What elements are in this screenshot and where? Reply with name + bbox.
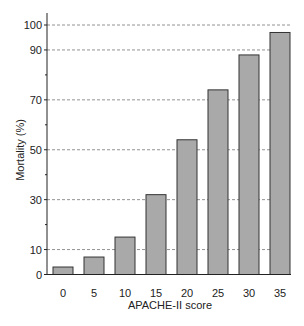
bar-20 [177,140,197,275]
bar-5 [84,257,104,274]
bar-25 [208,90,228,275]
bar-15 [146,195,166,275]
x-tick-label: 0 [60,287,66,299]
x-tick-label: 20 [181,287,193,299]
bar-10 [115,237,135,274]
x-tick-label: 10 [119,287,131,299]
x-tick-label: 35 [274,287,286,299]
bar-30 [239,55,259,275]
bar-0 [53,267,73,274]
y-ticks: 01030507090100 [24,19,47,281]
y-tick-label: 70 [30,94,42,106]
x-axis-label: APACHE-II score [128,299,212,311]
bar-35 [270,32,290,274]
y-tick-label: 50 [30,144,42,156]
x-tick-label: 5 [91,287,97,299]
y-tick-label: 0 [36,269,42,281]
x-tick-label: 15 [150,287,162,299]
y-tick-label: 10 [30,244,42,256]
x-ticks: 05101520253035 [60,287,286,299]
bars [53,32,290,274]
bar-chart: 01030507090100 05101520253035 APACHE-II … [0,0,304,326]
y-axis-label: Mortality (%) [14,119,26,181]
y-tick-label: 100 [24,19,42,31]
y-tick-label: 30 [30,194,42,206]
y-tick-label: 90 [30,44,42,56]
x-tick-label: 30 [243,287,255,299]
x-tick-label: 25 [212,287,224,299]
